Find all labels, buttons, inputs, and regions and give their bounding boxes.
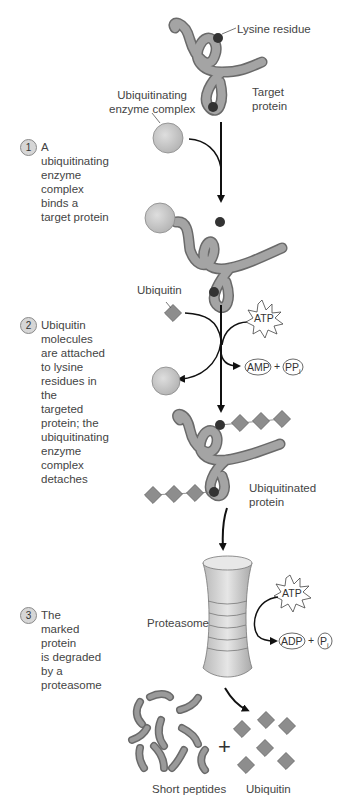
enzyme-complex-free bbox=[153, 123, 183, 153]
amp-label: AMP bbox=[247, 361, 270, 373]
step-1-text: A ubiquitinating enzyme complex binds a … bbox=[41, 140, 109, 224]
enzyme-complex-detached bbox=[152, 367, 180, 395]
step-2-text: Ubiquitin molecules are attached to lysi… bbox=[41, 318, 109, 486]
plus-sign: + bbox=[218, 736, 231, 758]
plus-amp-ppi: + bbox=[274, 360, 280, 372]
atp-label-1: ATP bbox=[254, 312, 274, 324]
lysine-residue-top bbox=[213, 33, 223, 43]
ppi-subscript: i bbox=[299, 368, 301, 375]
ppi-text: PP bbox=[285, 361, 299, 373]
proteasome bbox=[203, 556, 252, 677]
label-enzyme-complex: Ubiquitinating enzyme complex bbox=[109, 88, 195, 116]
step-1-number: 1 bbox=[20, 139, 37, 156]
pi-subscript: i bbox=[327, 642, 329, 649]
pi-label: Pi bbox=[320, 635, 329, 649]
arrow-to-products bbox=[225, 688, 247, 710]
label-ubiquitin-top: Ubiquitin bbox=[137, 283, 182, 297]
label-proteasome: Proteasome bbox=[147, 616, 209, 630]
label-lysine-residue: Lysine residue bbox=[237, 22, 311, 36]
label-ubiquitinated-protein: Ubiquitinated protein bbox=[249, 481, 316, 509]
ppi-label: PPi bbox=[285, 361, 301, 375]
arrow-to-proteasome bbox=[223, 508, 227, 548]
lysine-residue-bottom bbox=[208, 102, 218, 112]
ubiquitin-single bbox=[165, 305, 182, 322]
label-target-protein: Target protein bbox=[252, 85, 287, 113]
label-ubiquitin-bottom: Ubiquitin bbox=[246, 782, 291, 796]
step-3-text: The marked protein is degraded by a prot… bbox=[41, 608, 102, 692]
pi-text: P bbox=[320, 635, 327, 647]
free-ubiquitin bbox=[234, 712, 296, 774]
atp-label-2: ATP bbox=[282, 587, 302, 599]
step-3-number: 3 bbox=[20, 607, 37, 624]
plus-adp-pi: + bbox=[308, 634, 314, 646]
label-short-peptides: Short peptides bbox=[152, 782, 226, 796]
adp-label: ADP bbox=[281, 635, 303, 647]
step-2-number: 2 bbox=[20, 317, 37, 334]
